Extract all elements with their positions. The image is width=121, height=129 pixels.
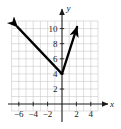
curve-right-branch: [62, 27, 77, 74]
y-tick-label-10: 10: [49, 24, 59, 34]
y-axis-title: y: [66, 3, 71, 13]
y-tick-label-4: 4: [53, 69, 58, 79]
y-tick-label-8: 8: [53, 39, 58, 49]
x-tick-label--4: −4: [28, 109, 38, 119]
y-tick-label-2: 2: [53, 84, 58, 94]
x-tick-label--2: −2: [43, 109, 53, 119]
x-axis-title: x: [109, 99, 114, 109]
y-tick-label-6: 6: [53, 54, 58, 64]
graph-curve: [17, 27, 77, 74]
curve-left-branch: [17, 27, 62, 74]
coordinate-plane-svg: −6 −4 −2 2 4 2 4 6 8 10 x y: [0, 0, 121, 129]
x-tick-label-4: 4: [89, 109, 94, 119]
x-tick-label--6: −6: [14, 109, 24, 119]
x-tick-label-2: 2: [74, 109, 79, 119]
graph-figure: −6 −4 −2 2 4 2 4 6 8 10 x y: [0, 0, 121, 129]
